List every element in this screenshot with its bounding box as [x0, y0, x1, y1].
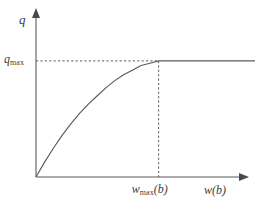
x-axis-arrow-icon	[239, 173, 249, 181]
y-axis-label-text: q	[19, 12, 26, 27]
x-axis-label: w(b)	[204, 183, 226, 198]
y-tick-label-qmax: qmax	[4, 52, 24, 67]
x-tick-label-wmax: wmax(b)	[132, 182, 168, 197]
figure-container: q qmax wmax(b) w(b)	[0, 0, 257, 206]
y-axis-label: q	[19, 12, 26, 28]
saturating-curve	[36, 61, 159, 177]
x-axis-label-base: w	[204, 183, 212, 197]
x-tick-label-argument: (b)	[154, 182, 168, 196]
y-axis-arrow-icon	[32, 8, 40, 18]
y-tick-label-subscript: max	[10, 58, 24, 67]
x-tick-label-base: w	[132, 182, 140, 196]
chart-canvas	[0, 0, 257, 206]
x-axis-label-argument: (b)	[212, 183, 226, 197]
x-tick-label-subscript: max	[140, 188, 154, 197]
